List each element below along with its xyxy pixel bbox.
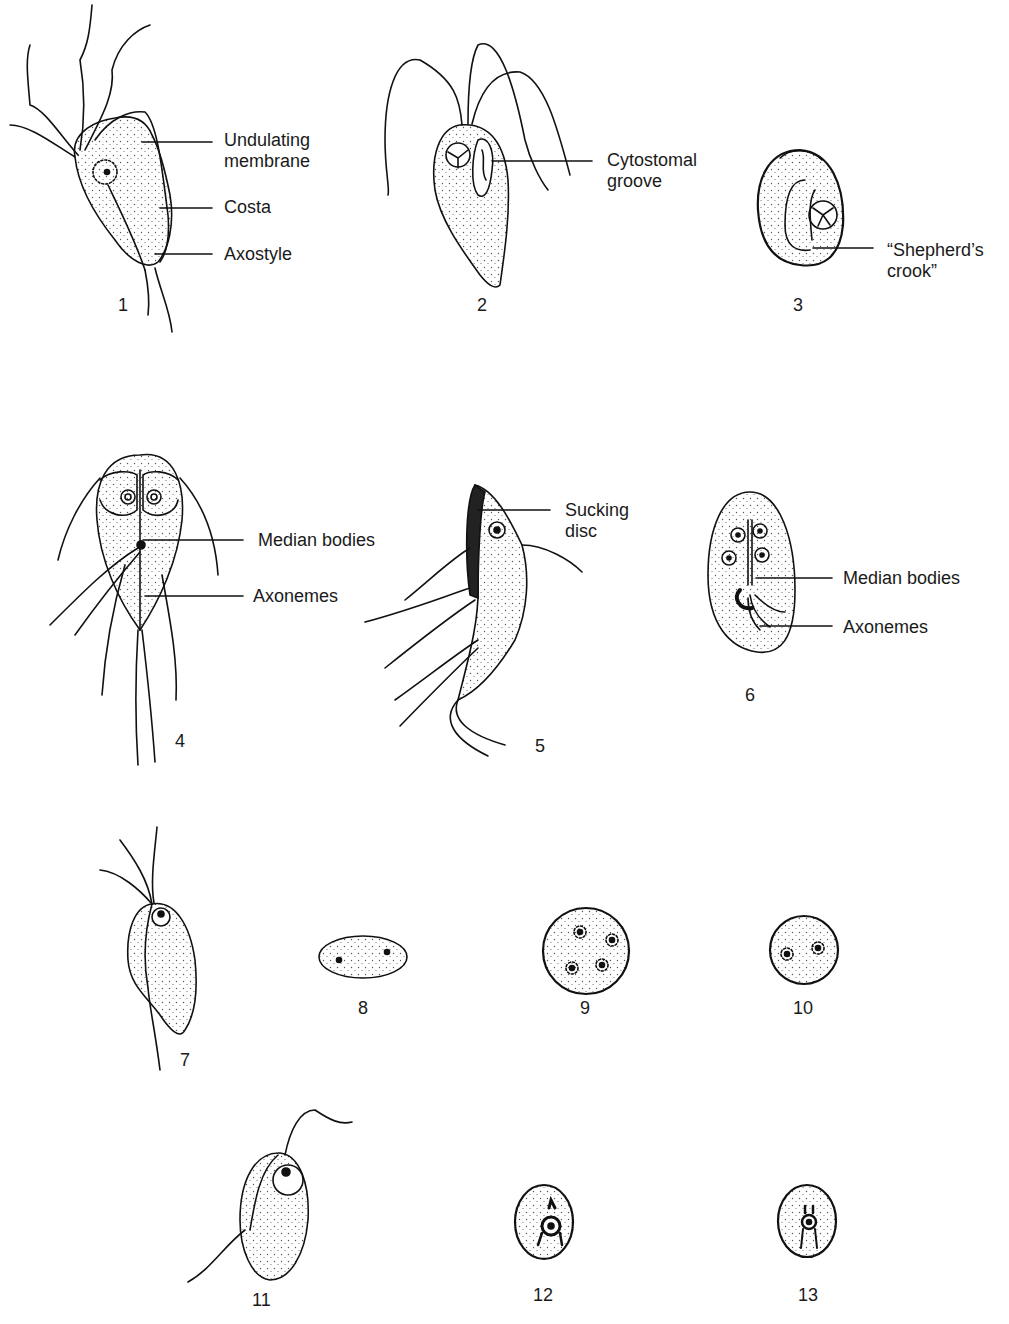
panel-7-organism [100, 827, 196, 1070]
panel-number-5: 5 [535, 736, 545, 756]
panel-3-organism [758, 150, 873, 266]
label-shepherds-crook: “Shepherd’s crook” [887, 240, 984, 282]
panel-number-8: 8 [358, 998, 368, 1018]
panel-number-7: 7 [180, 1050, 190, 1070]
label-cytostomal-groove: Cytostomal groove [607, 150, 697, 192]
panel-4-organism [50, 455, 243, 765]
panel-8-organism [319, 936, 407, 978]
panel-number-10: 10 [793, 998, 813, 1018]
panel-9-organism [543, 908, 629, 994]
panel-number-12: 12 [533, 1285, 553, 1305]
panel-2-organism [385, 44, 592, 287]
panel-13-organism [778, 1185, 836, 1257]
panel-number-2: 2 [477, 295, 487, 315]
panel-1-organism [10, 5, 212, 332]
panel-11-organism [188, 1110, 352, 1282]
label-median-bodies: Median bodies [258, 530, 375, 551]
panel-5-organism [365, 485, 582, 756]
label-axonemes-cyst: Axonemes [843, 617, 928, 638]
protozoa-illustration [0, 0, 1009, 1324]
label-undulating-membrane: Undulating membrane [224, 130, 310, 172]
label-axonemes: Axonemes [253, 586, 338, 607]
panel-number-3: 3 [793, 295, 803, 315]
label-sucking-disc: Sucking disc [565, 500, 629, 542]
panel-number-11: 11 [252, 1290, 271, 1310]
panel-number-6: 6 [745, 685, 755, 705]
panel-10-organism [770, 916, 838, 984]
panel-number-13: 13 [798, 1285, 818, 1305]
panel-number-9: 9 [580, 998, 590, 1018]
label-costa: Costa [224, 197, 271, 218]
panel-12-organism [515, 1185, 573, 1259]
label-axostyle: Axostyle [224, 244, 292, 265]
panel-number-4: 4 [175, 731, 185, 751]
panel-6-organism [708, 492, 832, 652]
panel-number-1: 1 [118, 295, 128, 315]
label-median-bodies-cyst: Median bodies [843, 568, 960, 589]
